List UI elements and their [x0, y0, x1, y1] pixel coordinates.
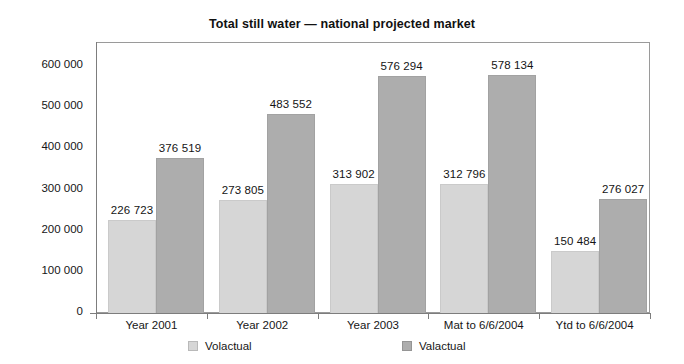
- bar-volactual-year-2002: [219, 200, 267, 313]
- bar-value-label: 578 134: [491, 59, 533, 71]
- chart-screenshot: Total still water — national projected m…: [0, 0, 684, 364]
- bar-value-label: 313 902: [332, 168, 374, 180]
- legend-swatch-icon: [188, 341, 198, 351]
- y-axis-tick-label: 300 000: [41, 182, 83, 194]
- x-axis-category-label: Year 2001: [96, 319, 207, 331]
- x-axis-category-label: Year 2002: [207, 319, 318, 331]
- y-axis-line: [96, 42, 97, 314]
- bar-value-label: 483 552: [270, 98, 312, 110]
- y-axis-tick-label: 500 000: [41, 99, 83, 111]
- x-axis-tick-mark: [650, 313, 651, 319]
- bar-value-label: 576 294: [380, 60, 422, 72]
- legend-swatch-icon: [402, 341, 412, 351]
- y-axis-tick-label: 200 000: [41, 223, 83, 235]
- bar-volactual-year-2001: [108, 220, 156, 313]
- x-axis-line: [96, 313, 651, 314]
- legend-item-valactual[interactable]: Valactual: [402, 337, 465, 355]
- bar-value-label: 150 484: [554, 235, 596, 247]
- x-axis-category-label: Mat to 6/6/2004: [428, 319, 539, 331]
- bar-valactual-ytd-to-6-6-2004: [599, 199, 647, 313]
- bar-valactual-year-2002: [267, 114, 315, 313]
- bar-valactual-year-2003: [378, 76, 426, 313]
- bar-value-label: 276 027: [602, 183, 644, 195]
- legend-label: Volactual: [205, 340, 252, 352]
- x-axis-category-label: Year 2003: [318, 319, 429, 331]
- bar-value-label: 226 723: [111, 204, 153, 216]
- bar-value-label: 312 796: [443, 168, 485, 180]
- y-axis-tick-label: 600 000: [41, 58, 83, 70]
- y-axis-tick-label: 100 000: [41, 264, 83, 276]
- bar-valactual-mat-to-6-6-2004: [488, 75, 536, 313]
- legend-item-volactual[interactable]: Volactual: [188, 337, 252, 355]
- legend-label: Valactual: [419, 340, 465, 352]
- chart-legend: VolactualValactual: [0, 337, 684, 357]
- bar-volactual-ytd-to-6-6-2004: [551, 251, 599, 313]
- bar-volactual-year-2003: [330, 184, 378, 313]
- bar-value-label: 273 805: [222, 184, 264, 196]
- bar-value-label: 376 519: [159, 142, 201, 154]
- chart-title: Total still water — national projected m…: [0, 17, 684, 31]
- x-axis-category-label: Ytd to 6/6/2004: [539, 319, 650, 331]
- y-axis-tick-label: 400 000: [41, 140, 83, 152]
- bar-valactual-year-2001: [156, 158, 204, 313]
- bar-volactual-mat-to-6-6-2004: [440, 184, 488, 313]
- y-axis-tick-label: 0: [77, 305, 83, 317]
